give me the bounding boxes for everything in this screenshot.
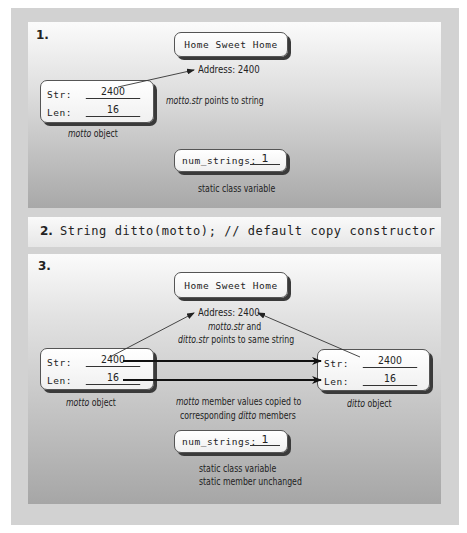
motto-object-caption: motto object [68, 128, 118, 139]
len-label: Len: [47, 107, 72, 118]
len-label: Len: [47, 375, 72, 386]
caption-rest: member values copied to [199, 396, 301, 407]
str-label: Str: [47, 357, 72, 368]
caption-italic: motto.str [208, 321, 244, 332]
len-value: 16 [363, 371, 417, 386]
string-text: Home Sweet Home [175, 39, 287, 50]
caption-rest: object [365, 398, 392, 409]
step-1-number: 1. [36, 28, 49, 42]
caption-rest: object [89, 397, 116, 408]
string-storage-box: Home Sweet Home [174, 32, 288, 57]
num-strings-label: num_strings: [182, 436, 257, 447]
caption-rest: object [91, 128, 118, 139]
len-field: Len: 16 [324, 371, 428, 389]
len-value: 16 [86, 370, 140, 385]
static-caption-line-2: static member unchanged [199, 476, 302, 487]
pointer-caption-line-2: ditto.str points to same string [178, 334, 294, 345]
ditto-object-caption: ditto object [347, 398, 392, 409]
motto-object-caption: motto object [66, 397, 116, 408]
len-value: 16 [86, 102, 140, 117]
caption-italic: motto [176, 396, 199, 407]
motto-object-box: Str: 2400 Len: 16 [40, 348, 154, 390]
pointer-caption-line-1: motto.str and [208, 321, 261, 332]
caption-italic: motto [68, 128, 91, 139]
caption-italic: motto [66, 397, 89, 408]
str-field: Str: 2400 [324, 353, 428, 371]
caption-rest: and [244, 321, 261, 332]
len-label: Len: [324, 376, 349, 387]
num-strings-value: 1 [250, 152, 280, 165]
caption-rest: points to same string [209, 334, 294, 345]
str-field: Str: 2400 [47, 84, 151, 102]
string-storage-box: Home Sweet Home [174, 272, 288, 298]
num-strings-value: 1 [250, 433, 280, 446]
string-text: Home Sweet Home [175, 280, 287, 291]
str-field: Str: 2400 [47, 352, 151, 370]
caption-italic: motto.str [166, 95, 202, 106]
address-label: Address: 2400 [198, 63, 260, 76]
len-field: Len: 16 [47, 370, 151, 388]
str-value: 2400 [86, 84, 140, 99]
caption-italic: ditto [347, 398, 365, 409]
copy-constructor-code: String ditto(motto); // default copy con… [60, 224, 436, 238]
copy-caption-line-2: corresponding ditto members [180, 410, 296, 421]
copy-caption-line-1: motto member values copied to [176, 396, 301, 407]
caption-rest: points to string [202, 95, 264, 106]
str-value: 2400 [363, 353, 417, 368]
motto-object-box: Str: 2400 Len: 16 [40, 80, 154, 123]
caption-rest: members [256, 410, 295, 421]
static-variable-box: num_strings: 1 [174, 149, 287, 172]
static-variable-box: num_strings: 1 [174, 430, 288, 453]
str-label: Str: [47, 89, 72, 100]
caption-pre: corresponding [180, 410, 238, 421]
address-label: Address: 2400 [198, 306, 260, 319]
step-2-number: 2. [40, 224, 53, 238]
pointer-caption: motto.str points to string [166, 95, 264, 106]
static-caption-line-1: static class variable [199, 463, 276, 474]
ditto-object-box: Str: 2400 Len: 16 [317, 349, 430, 391]
len-field: Len: 16 [47, 102, 151, 120]
str-value: 2400 [86, 352, 140, 367]
str-label: Str: [324, 358, 349, 369]
static-caption: static class variable [198, 183, 275, 194]
step-3-number: 3. [38, 259, 51, 273]
caption-italic: ditto [238, 410, 256, 421]
caption-italic: ditto.str [178, 334, 209, 345]
num-strings-label: num_strings: [182, 155, 257, 166]
